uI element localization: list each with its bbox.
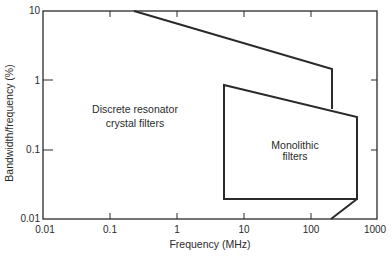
x-tick-label: 0.1 — [103, 224, 117, 235]
x-tick-label: 1000 — [364, 224, 387, 235]
y-tick-label: 0.01 — [21, 213, 41, 224]
y-tick-label: 10 — [29, 5, 41, 16]
plot-frame — [43, 11, 377, 219]
x-tick-label: 100 — [303, 224, 320, 235]
monolithic-region-label: Monolithic filters — [271, 139, 318, 162]
monolithic-label-line2: filters — [282, 150, 307, 162]
y-axis-ticks — [43, 80, 377, 150]
y-tick-labels: 0.01 0.1 1 10 — [21, 5, 41, 224]
y-axis-title: Bandwidth/frequency (%) — [3, 64, 15, 181]
x-tick-labels: 0.01 0.1 1 10 100 1000 — [35, 224, 386, 235]
x-axis-ticks — [110, 11, 311, 219]
y-tick-label: 0.1 — [26, 144, 40, 155]
x-axis-title: Frequency (MHz) — [169, 238, 250, 250]
x-tick-label: 1 — [174, 224, 180, 235]
x-tick-label: 0.01 — [35, 224, 55, 235]
discrete-label-line2: crystal filters — [106, 117, 164, 129]
lower-right-boundary-line — [331, 199, 357, 219]
y-tick-label: 1 — [34, 75, 40, 86]
discrete-region-label: Discrete resonator crystal filters — [92, 103, 178, 129]
chart: 0.01 0.1 1 10 100 1000 0.01 0.1 1 10 Fre… — [0, 0, 392, 256]
discrete-label-line1: Discrete resonator — [92, 103, 178, 115]
discrete-boundary-line — [134, 11, 332, 109]
x-tick-label: 10 — [238, 224, 250, 235]
